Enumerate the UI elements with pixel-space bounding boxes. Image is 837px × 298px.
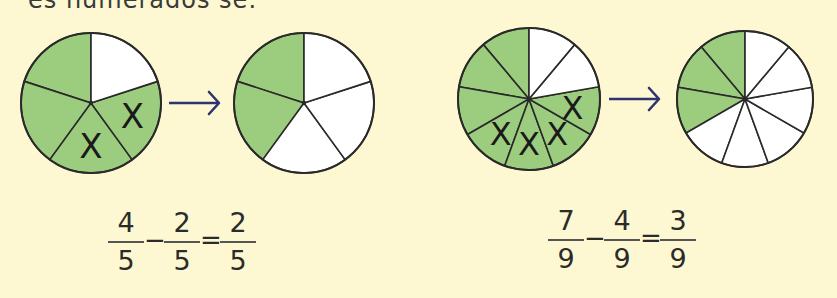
fraction-subtrahend: 4 9 [604, 206, 640, 274]
pie-ninths-before: XXXX [458, 28, 600, 170]
minus-sign: − [144, 225, 164, 255]
cross-mark: X [518, 125, 540, 163]
equation-ninths: 7 9 − 4 9 = 3 9 [548, 206, 696, 274]
fraction-subtrahend: 2 5 [164, 208, 200, 276]
fraction-result: 3 9 [660, 206, 696, 274]
fraction-minuend: 4 5 [108, 208, 144, 276]
fraction-minuend: 7 9 [548, 206, 584, 274]
equation-fifths: 4 5 − 2 5 = 2 5 [108, 208, 256, 276]
arrow-icon [169, 92, 219, 114]
arrow-icon [609, 88, 659, 110]
pie-fifths-before: XX [21, 33, 161, 173]
pie-ninths-after [677, 31, 813, 167]
pie-fifths-after [234, 33, 374, 173]
equals-sign: = [640, 223, 660, 253]
equals-sign: = [200, 225, 220, 255]
cross-mark: X [490, 115, 512, 153]
cross-mark: X [121, 96, 144, 136]
cross-mark: X [546, 115, 568, 153]
cross-mark: X [79, 126, 102, 166]
minus-sign: − [584, 223, 604, 253]
fraction-result: 2 5 [220, 208, 256, 276]
